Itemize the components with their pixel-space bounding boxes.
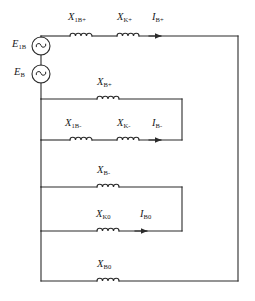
label-i-b-minus: IB- xyxy=(152,118,162,129)
circuit-diagram: E1B EB X1B+ XK+ XB+ X1B- XK- XB- XK0 XB0… xyxy=(0,0,255,301)
label-x-b0: XB0 xyxy=(97,259,111,270)
label-x-1b-plus: X1B+ xyxy=(68,12,86,23)
inductor-x-1b-plus xyxy=(70,33,92,36)
label-x-b-minus: XB- xyxy=(97,165,110,176)
label-i-b0: IB0 xyxy=(140,209,151,220)
sine-glyph-eb xyxy=(36,72,46,76)
inductor-x-k0 xyxy=(97,228,119,231)
label-x-1b-minus: X1B- xyxy=(65,118,81,129)
inductor-x-1b-minus xyxy=(70,137,92,140)
sine-glyph-e1b xyxy=(36,44,46,48)
label-source-eb: EB xyxy=(14,67,25,78)
label-x-k-plus: XK+ xyxy=(117,12,132,23)
label-i-b-plus: IB+ xyxy=(152,12,164,23)
label-x-b-plus: XB+ xyxy=(97,77,112,88)
inductor-x-k-minus xyxy=(117,137,139,140)
inductor-x-b-plus xyxy=(97,96,119,99)
circuit-schematic-canvas xyxy=(0,0,255,301)
label-x-k-minus: XK- xyxy=(117,118,130,129)
inductor-x-b0 xyxy=(97,278,119,281)
label-x-k0: XK0 xyxy=(96,209,111,220)
label-source-e1b: E1B xyxy=(12,39,26,50)
inductor-x-b-minus xyxy=(97,184,119,187)
inductor-x-k-plus xyxy=(117,33,139,36)
